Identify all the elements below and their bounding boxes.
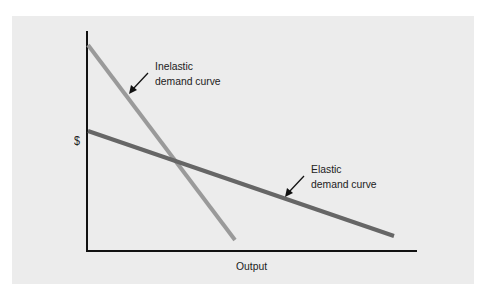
x-axis-label: Output [236, 259, 267, 273]
elastic-arrow-icon [285, 176, 304, 197]
inelastic-label-line2: demand curve [155, 74, 221, 88]
inelastic-arrow-icon [129, 73, 148, 94]
inelastic-label-line1: Inelastic [155, 59, 193, 73]
elastic-label-line2: demand curve [311, 177, 377, 191]
elastic-label-line1: Elastic [311, 162, 341, 176]
y-axis-label: $ [74, 134, 80, 148]
